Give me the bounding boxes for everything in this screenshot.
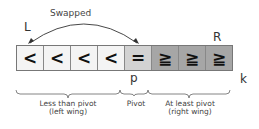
array-cell: <: [17, 46, 44, 70]
pivot-marker: p: [130, 71, 138, 85]
array-cell-pivot: =: [125, 46, 152, 70]
array-row: < < < < = ≧ ≧ ≧: [16, 45, 233, 71]
array-cell: ≧: [179, 46, 206, 70]
swap-arc: [30, 24, 137, 43]
arrowhead-left-icon: [28, 38, 34, 44]
pivot-brace: [120, 90, 148, 96]
arrowhead-right-icon: [133, 38, 139, 44]
array-cell: ≧: [206, 46, 232, 70]
pivot-caption: Pivot: [122, 100, 150, 108]
right-pointer-label: R: [213, 30, 221, 44]
array-cell: <: [44, 46, 71, 70]
end-marker: k: [240, 72, 247, 86]
array-cell: <: [98, 46, 125, 70]
left-wing-caption: Less than pivot (left wing): [35, 100, 101, 116]
swap-label: Swapped: [50, 8, 91, 18]
right-wing-brace: [148, 90, 230, 98]
array-cell: <: [71, 46, 98, 70]
right-wing-caption: At least pivot (right wing): [160, 100, 220, 116]
left-wing-brace: [16, 90, 120, 98]
left-pointer-label: L: [24, 20, 31, 34]
array-cell: ≧: [152, 46, 179, 70]
